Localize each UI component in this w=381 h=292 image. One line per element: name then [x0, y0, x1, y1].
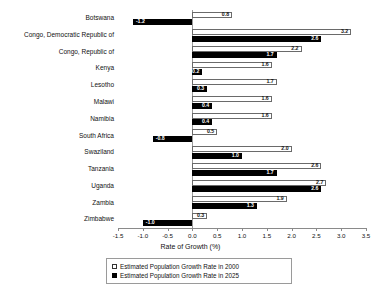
bar-2000[interactable]: 2.6 [192, 163, 321, 169]
bar-2025[interactable]: 1.7 [192, 52, 276, 58]
category-label: South Africa [79, 133, 114, 140]
category-label: Zimbabwe [84, 216, 114, 223]
bar-value-label: 3.2 [341, 29, 348, 34]
bar-2025[interactable]: -1.0 [143, 220, 193, 226]
legend-label-2025: Estimated Population Growth Rate in 2025 [120, 271, 239, 280]
x-axis-tick [118, 228, 119, 231]
bar-2000[interactable]: 2.0 [192, 146, 291, 152]
bar-value-label: 0.4 [202, 120, 209, 125]
category-label: Congo, Democratic Republic of [24, 32, 114, 39]
bar-value-label: -0.8 [156, 137, 165, 142]
bar-rows: Botswana0.8-1.2Congo, Democratic Republi… [118, 10, 366, 228]
x-axis-tick [242, 228, 243, 231]
bar-2025[interactable]: 1.3 [192, 203, 256, 209]
x-axis-tick [217, 228, 218, 231]
bar-2025[interactable]: -1.2 [133, 19, 193, 25]
bar-group: 0.3-1.0 [118, 211, 366, 228]
x-axis-tick-label: 1.5 [262, 233, 271, 239]
category-label: Uganda [91, 183, 114, 190]
x-axis-tick-label: -1.0 [137, 233, 148, 239]
bar-2000[interactable]: 3.2 [192, 29, 351, 35]
chart-row: Uganda2.72.6 [118, 178, 366, 195]
bar-2025[interactable]: 2.6 [192, 36, 321, 42]
bar-2025[interactable]: 1.0 [192, 153, 242, 159]
category-label: Tanzania [88, 166, 114, 173]
chart-row: Zimbabwe0.3-1.0 [118, 211, 366, 228]
bar-2000[interactable]: 1.9 [192, 196, 286, 202]
chart-row: Zambia1.91.3 [118, 194, 366, 211]
bar-value-label: 0.4 [202, 103, 209, 108]
bar-value-label: 1.7 [266, 53, 273, 58]
bar-2025[interactable]: -0.8 [153, 136, 193, 142]
chart-row: Malawi1.60.4 [118, 94, 366, 111]
population-growth-bar-chart: Botswana0.8-1.2Congo, Democratic Republi… [0, 0, 381, 292]
legend-item: Estimated Population Growth Rate in 2025 [112, 271, 286, 280]
bar-2000[interactable]: 1.6 [192, 96, 271, 102]
x-axis-tick-label: -1.5 [113, 233, 124, 239]
bar-2025[interactable]: 0.3 [192, 86, 207, 92]
bar-value-label: 0.3 [197, 214, 204, 219]
bar-value-label: 2.6 [311, 163, 318, 168]
bar-value-label: 1.6 [262, 96, 269, 101]
category-label: Botswana [85, 15, 114, 22]
bar-group: 1.60.2 [118, 60, 366, 77]
x-axis-tick [341, 228, 342, 231]
bar-2025[interactable]: 0.4 [192, 119, 212, 125]
x-axis-tick-label: 0.5 [213, 233, 222, 239]
bar-group: 2.01.0 [118, 144, 366, 161]
chart-row: Congo, Democratic Republic of3.22.6 [118, 27, 366, 44]
bar-2025[interactable]: 0.4 [192, 103, 212, 109]
x-axis-tick [168, 228, 169, 231]
bar-value-label: 2.2 [291, 46, 298, 51]
legend-swatch-2000-icon [112, 264, 117, 269]
bar-value-label: 2.0 [281, 147, 288, 152]
chart-row: Kenya1.60.2 [118, 60, 366, 77]
bar-value-label: 1.7 [266, 170, 273, 175]
legend-label-2000: Estimated Population Growth Rate in 2000 [120, 262, 239, 271]
chart-row: Swaziland2.01.0 [118, 144, 366, 161]
bar-value-label: -1.2 [136, 19, 145, 24]
bar-2025[interactable]: 2.6 [192, 186, 321, 192]
bar-value-label: 0.5 [207, 130, 214, 135]
bar-2000[interactable]: 2.2 [192, 46, 301, 52]
bar-2000[interactable]: 1.7 [192, 79, 276, 85]
category-label: Zambia [92, 200, 114, 207]
bar-group: 3.22.6 [118, 27, 366, 44]
bar-group: 1.60.4 [118, 111, 366, 128]
bar-value-label: 1.0 [232, 153, 239, 158]
x-axis-tick [366, 228, 367, 231]
bar-2025[interactable]: 0.2 [192, 69, 202, 75]
x-axis-tick-label: 2.5 [312, 233, 321, 239]
x-axis-tick-label: 2.0 [287, 233, 296, 239]
category-label: Kenya [96, 65, 114, 72]
legend-item: Estimated Population Growth Rate in 2000 [112, 262, 286, 271]
bar-2000[interactable]: 0.3 [192, 213, 207, 219]
x-axis-tick-label: 1.0 [238, 233, 247, 239]
bar-group: 0.8-1.2 [118, 10, 366, 27]
bar-2000[interactable]: 1.6 [192, 62, 271, 68]
bar-2000[interactable]: 2.7 [192, 180, 326, 186]
bar-value-label: 2.6 [311, 36, 318, 41]
x-axis-tick-label: 3.5 [362, 233, 371, 239]
bar-value-label: 0.2 [192, 69, 199, 74]
bar-value-label: 1.9 [276, 197, 283, 202]
bar-2000[interactable]: 0.5 [192, 129, 217, 135]
x-axis-title: Rate of Growth (%) [0, 243, 381, 250]
bar-2000[interactable]: 1.6 [192, 113, 271, 119]
bar-value-label: -1.0 [146, 220, 155, 225]
bar-value-label: 1.7 [266, 79, 273, 84]
bar-value-label: 0.8 [222, 12, 229, 17]
bar-group: 2.21.7 [118, 44, 366, 61]
bar-2000[interactable]: 0.8 [192, 12, 232, 18]
bar-value-label: 1.3 [247, 204, 254, 209]
x-axis-tick-label: 0.0 [188, 233, 197, 239]
bar-group: 1.91.3 [118, 194, 366, 211]
category-label: Swaziland [84, 149, 114, 156]
bar-value-label: 2.6 [311, 187, 318, 192]
chart-row: Namibia1.60.4 [118, 111, 366, 128]
bar-group: 1.70.3 [118, 77, 366, 94]
bar-2025[interactable]: 1.7 [192, 170, 276, 176]
x-axis-tick [267, 228, 268, 231]
bar-group: 2.61.7 [118, 161, 366, 178]
x-axis-tick [316, 228, 317, 231]
